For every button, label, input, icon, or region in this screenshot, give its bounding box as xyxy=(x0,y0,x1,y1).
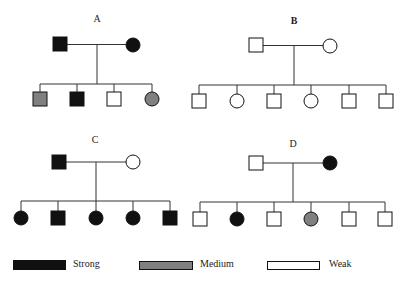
legend-label-medium: Medium xyxy=(200,258,234,269)
pedigree-b-child-3-male-square xyxy=(267,94,281,108)
pedigree-d-child-5-male-square xyxy=(342,212,356,226)
legend-label-weak: Weak xyxy=(329,258,352,269)
pedigree-label-b: B xyxy=(291,15,298,26)
legend-label-strong: Strong xyxy=(73,258,100,269)
pedigree-d-child-6-male-square xyxy=(378,212,392,226)
legend-swatch-weak xyxy=(267,261,320,270)
pedigree-diagram xyxy=(0,0,401,286)
legend-swatch-strong xyxy=(13,260,66,270)
pedigree-a-father-male-square xyxy=(53,37,67,51)
pedigree-d-child-2-female-circle xyxy=(230,212,244,226)
pedigree-label-a: A xyxy=(93,13,100,24)
pedigree-d-child-4-female-circle xyxy=(304,212,318,226)
pedigree-d-child-1-male-square xyxy=(193,212,207,226)
pedigree-c-child-2-male-square xyxy=(51,211,65,225)
pedigree-label-d: D xyxy=(289,138,296,149)
pedigree-b-father-male-square xyxy=(249,38,263,52)
pedigree-b-child-4-female-circle xyxy=(304,94,318,108)
pedigree-b-mother-female-circle xyxy=(323,39,337,53)
pedigree-c-child-3-female-circle xyxy=(89,211,103,225)
pedigree-b-child-5-male-square xyxy=(342,94,356,108)
pedigree-label-c: C xyxy=(92,134,99,145)
pedigree-c-mother-female-circle xyxy=(126,155,140,169)
pedigree-d-child-3-male-square xyxy=(267,212,281,226)
pedigree-d-father-male-square xyxy=(249,156,263,170)
pedigree-b-child-1-male-square xyxy=(192,94,206,108)
pedigree-a-child-2-male-square xyxy=(70,92,84,106)
pedigree-b-child-6-male-square xyxy=(379,94,393,108)
pedigree-a-child-1-male-square xyxy=(33,92,47,106)
legend-swatch-medium xyxy=(139,261,193,270)
pedigree-c-child-4-female-circle xyxy=(126,211,140,225)
pedigree-a-mother-female-circle xyxy=(126,38,140,52)
pedigree-b-child-2-female-circle xyxy=(230,94,244,108)
pedigree-a-child-4-female-circle xyxy=(145,92,159,106)
pedigree-c-child-1-female-circle xyxy=(14,211,28,225)
pedigree-d-mother-female-circle xyxy=(323,156,337,170)
pedigree-c-father-male-square xyxy=(52,155,66,169)
pedigree-c-child-5-male-square xyxy=(163,211,177,225)
pedigree-a-child-3-male-square xyxy=(107,92,121,106)
